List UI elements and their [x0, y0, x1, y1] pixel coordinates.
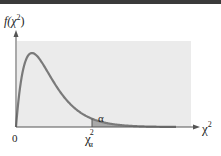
plot-panel	[17, 41, 191, 127]
y-axis-arrow-icon	[14, 30, 19, 37]
x-axis-label: χ2	[201, 120, 212, 136]
origin-tick-label: 0	[12, 132, 18, 144]
alpha-label: α	[98, 112, 104, 124]
y-axis-label: f(χ2)	[4, 13, 25, 28]
x-axis-arrow-icon	[193, 125, 200, 130]
chi-square-chart: f(χ2) χ2 0 χ2α α	[0, 0, 221, 156]
critical-value-tick-label: χ2α	[84, 128, 94, 149]
